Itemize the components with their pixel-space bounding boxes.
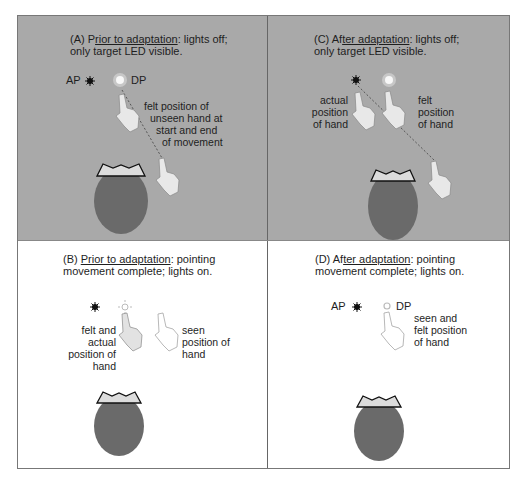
head-icon <box>368 170 418 240</box>
felt-hand-icon <box>119 313 142 351</box>
led-outline-icon <box>118 300 132 314</box>
hand-start-icon <box>116 94 139 132</box>
actual-hand-icon <box>352 92 375 130</box>
panel-a: (A) Prior to adaptation: lights off; onl… <box>18 16 267 240</box>
ap-star-icon <box>352 302 362 312</box>
vertical-divider <box>267 16 268 468</box>
horizontal-divider <box>18 240 509 241</box>
hand-end-icon <box>156 158 179 196</box>
dp-led-icon <box>382 73 396 87</box>
hand-end-icon <box>428 161 451 199</box>
head-icon <box>354 396 404 461</box>
head-icon <box>94 164 148 234</box>
panel-b-drawing <box>18 241 267 468</box>
head-icon <box>94 392 144 456</box>
ap-star-icon <box>351 75 361 85</box>
ap-star-icon <box>85 76 95 86</box>
dp-led-icon <box>113 73 127 87</box>
panel-b: (B) Prior to adaptation: pointing moveme… <box>18 241 267 468</box>
panel-c: (C) After adaptation: lights off; only t… <box>268 16 509 240</box>
panel-d-drawing <box>268 241 509 468</box>
panel-c-drawing <box>268 16 509 240</box>
seen-felt-hand-icon <box>381 312 404 350</box>
seen-hand-icon <box>155 313 178 351</box>
dp-led-outline-icon <box>384 303 390 309</box>
panel-d: (D) After adaptation: pointing movement … <box>268 241 509 468</box>
star-icon <box>90 302 100 312</box>
felt-hand-icon <box>382 91 405 129</box>
panel-a-drawing <box>18 16 267 240</box>
